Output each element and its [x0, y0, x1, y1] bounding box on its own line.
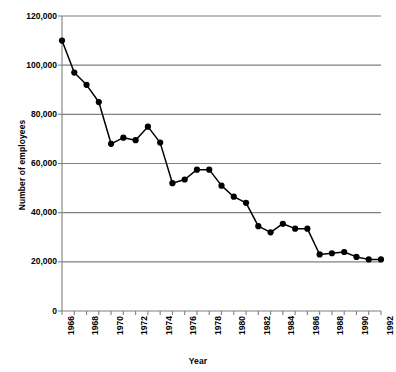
x-tick-label: 1984 — [287, 316, 296, 356]
x-tick-label: 1968 — [91, 316, 100, 356]
employees-line-chart: Number of employees 020,00040,00060,0008… — [0, 0, 396, 372]
x-tick-label: 1970 — [116, 316, 125, 356]
x-tick-label: 1986 — [312, 316, 321, 356]
x-tick-label: 1980 — [238, 316, 247, 356]
x-tick-label: 1978 — [214, 316, 223, 356]
x-axis-title: Year — [0, 356, 396, 366]
x-tick-label: 1992 — [386, 316, 395, 356]
x-tick-label: 1974 — [165, 316, 174, 356]
x-tick-label: 1966 — [67, 316, 76, 356]
x-axis-tick-labels: 1966196819701972197419761978198019821984… — [0, 0, 396, 372]
x-tick-label: 1972 — [140, 316, 149, 356]
x-tick-label: 1982 — [263, 316, 272, 356]
x-tick-label: 1990 — [361, 316, 370, 356]
x-tick-label: 1988 — [336, 316, 345, 356]
x-tick-label: 1976 — [189, 316, 198, 356]
